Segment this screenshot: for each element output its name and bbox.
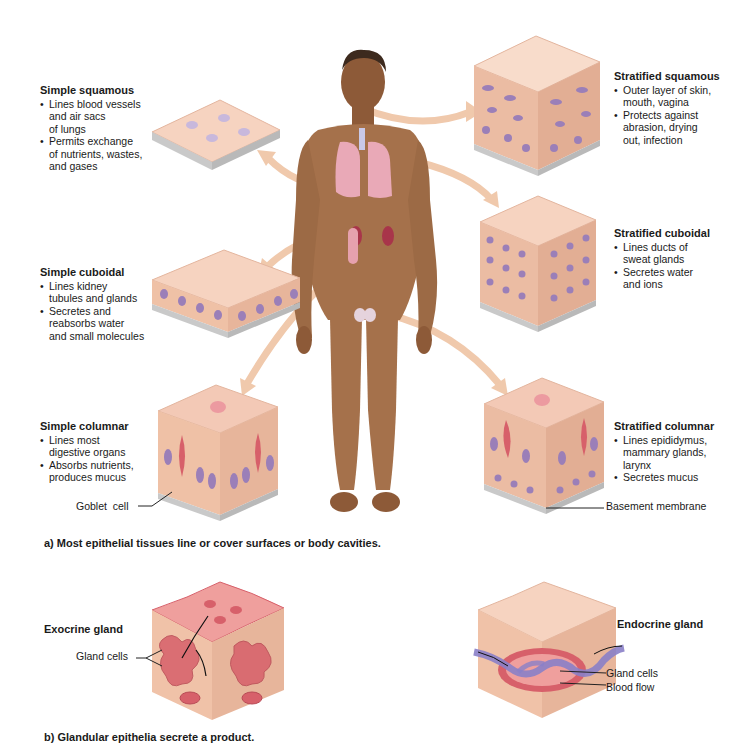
bullet: Lines epididymus,mammary glands,larynx <box>614 434 714 472</box>
title-stratified-columnar: Stratified columnar <box>614 420 714 433</box>
title-simple-columnar: Simple columnar <box>40 420 134 433</box>
bullet: Lines kidneytubules and glands <box>40 280 144 305</box>
basement-membrane-label: Basement membrane <box>606 500 706 512</box>
bullet: Secretes mucus <box>614 471 714 484</box>
bullet: Permits exchangeof nutrients, wastes,and… <box>40 135 142 173</box>
endocrine-gland-cells-label: Gland cells <box>606 667 658 679</box>
label-stratified-columnar: Stratified columnar Lines epididymus,mam… <box>614 420 714 484</box>
label-simple-cuboidal: Simple cuboidal Lines kidneytubules and … <box>40 266 144 342</box>
bullet: Secretes waterand ions <box>614 266 710 291</box>
endocrine-blood-flow-label: Blood flow <box>606 681 654 693</box>
simple-cuboidal-tissue <box>152 250 302 340</box>
bullet: Protects againstabrasion, dryingout, inf… <box>614 109 720 147</box>
stratified-squamous-tissue <box>474 36 604 176</box>
simple-squamous-tissue <box>152 100 282 170</box>
part-b-caption: b) Glandular epithelia secrete a product… <box>44 731 254 743</box>
bullet: Lines ducts ofsweat glands <box>614 241 710 266</box>
stratified-columnar-tissue <box>484 378 609 518</box>
label-simple-columnar: Simple columnar Lines mostdigestive orga… <box>40 420 134 484</box>
lungs <box>336 142 361 198</box>
exocrine-gland-cells-label: Gland cells <box>76 650 128 662</box>
goblet-cell-leader-line <box>138 490 178 510</box>
label-stratified-squamous: Stratified squamous Outer layer of skin,… <box>614 70 720 146</box>
title-simple-cuboidal: Simple cuboidal <box>40 266 144 279</box>
label-simple-squamous: Simple squamous Lines blood vesselsand a… <box>40 84 142 173</box>
exocrine-gland-cells-leader-line <box>136 650 166 670</box>
part-a-caption: a) Most epithelial tissues line or cover… <box>44 537 381 549</box>
bullet: Outer layer of skin,mouth, vagina <box>614 84 720 109</box>
bullet: Lines mostdigestive organs <box>40 434 134 459</box>
endocrine-gland-illustration <box>474 580 624 725</box>
stratified-cuboidal-tissue <box>480 196 600 336</box>
title-simple-squamous: Simple squamous <box>40 84 142 97</box>
bullet: Absorbs nutrients,produces mucus <box>40 459 134 484</box>
basement-membrane-leader-line <box>546 506 606 510</box>
kidney-right <box>382 226 394 246</box>
bullet: Lines blood vesselsand air sacsof lungs <box>40 98 142 136</box>
exocrine-gland-title: Exocrine gland <box>44 623 123 635</box>
exocrine-gland-illustration <box>148 580 288 730</box>
endocrine-gland-title: Endocrine gland <box>617 618 703 630</box>
title-stratified-squamous: Stratified squamous <box>614 70 720 83</box>
label-stratified-cuboidal: Stratified cuboidal Lines ducts ofsweat … <box>614 227 710 291</box>
title-stratified-cuboidal: Stratified cuboidal <box>614 227 710 240</box>
bullet: Secretes andreabsorbs waterand small mol… <box>40 305 144 343</box>
goblet-cell-label: Goblet cell <box>76 500 129 512</box>
